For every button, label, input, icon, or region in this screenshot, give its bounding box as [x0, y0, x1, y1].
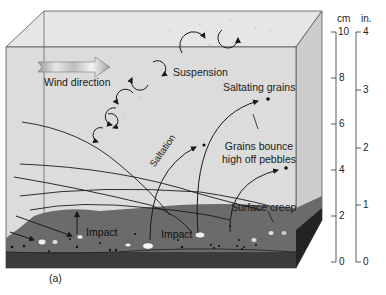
inch-tick: 0 — [363, 257, 369, 267]
impact-label-left: Impact — [86, 227, 118, 238]
panel-label: (a) — [49, 273, 62, 284]
ground-front — [6, 252, 296, 268]
cm-tick: 8 — [339, 73, 345, 83]
suspension-label: Suspension — [173, 67, 228, 78]
cm-unit-label: cm — [337, 14, 350, 24]
saltating-grains-label: Saltating grains — [223, 82, 295, 93]
inch-tick: 1 — [363, 200, 369, 210]
box-top-face — [6, 11, 322, 47]
cm-tick: 4 — [339, 165, 345, 175]
cm-tick: 10 — [338, 27, 349, 37]
impact-label-right: Impact — [161, 229, 193, 240]
cm-tick: 6 — [339, 119, 345, 129]
cm-tick: 2 — [339, 211, 345, 221]
grains-bounce-label-line1: Grains bounce — [222, 141, 296, 152]
wind-direction-label: Wind direction — [44, 77, 111, 88]
cm-scale — [331, 32, 336, 262]
inch-tick: 3 — [363, 85, 369, 95]
inch-tick: 4 — [363, 27, 369, 37]
inch-unit-label: in. — [361, 14, 372, 24]
surface-creep-label: Surface creep — [231, 202, 296, 213]
inch-scale — [356, 32, 361, 262]
grains-bounce-label-line2: high off pebbles — [220, 154, 298, 165]
inch-tick: 2 — [363, 143, 369, 153]
wind-transport-diagram — [0, 0, 386, 295]
cm-tick: 0 — [339, 257, 345, 267]
